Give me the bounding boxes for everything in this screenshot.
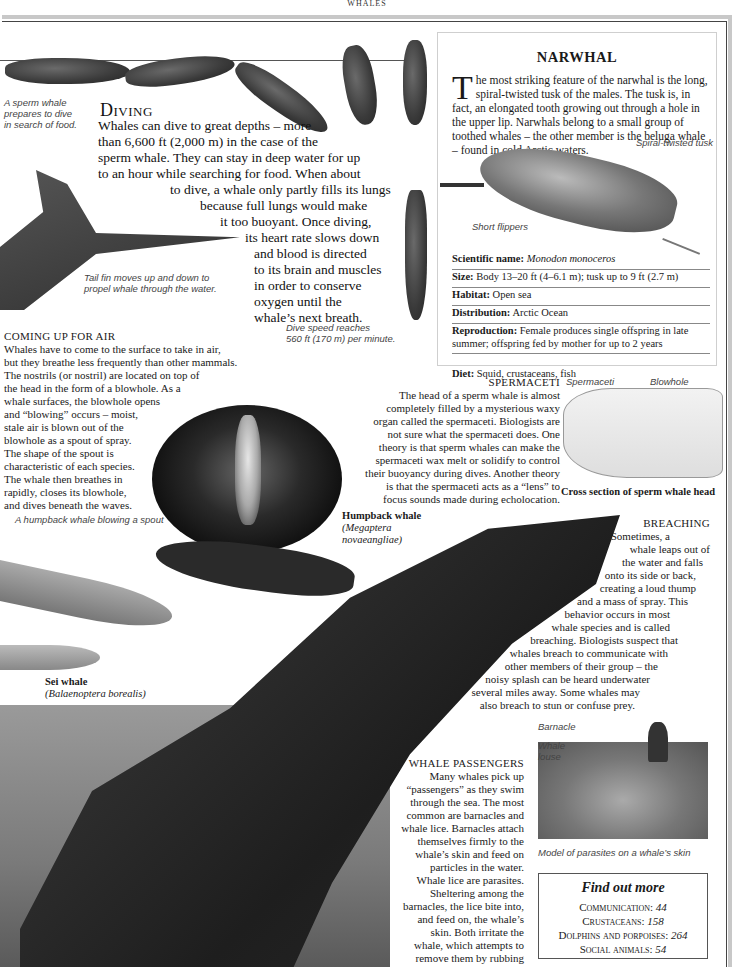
passengers-body: Many whales pick up “passengers” as they…	[384, 770, 524, 967]
narwhal-tail	[440, 183, 484, 187]
spermaceti-label: Spermaceti	[566, 376, 614, 387]
fact-reproduction: Reproduction: Female produces single off…	[452, 323, 710, 354]
flippers-label: Short flippers	[472, 221, 552, 232]
breaching-heading: BREACHING	[560, 517, 710, 529]
sperm-whale-diving-vertical	[405, 190, 427, 320]
sei-whale-label: Sei whale (Balaenoptera borealis)	[45, 676, 146, 700]
fact-habitat: Habitat: Open sea	[452, 287, 710, 306]
coming-up-heading: COMING UP FOR AIR	[4, 330, 115, 342]
whale-louse-label: Whale louse	[538, 740, 565, 762]
fact-scientific-name: Scientific name: Monodon monoceros	[452, 251, 710, 270]
tail-fin-caption: Tail fin moves up and down to propel wha…	[84, 272, 254, 294]
fact-size: Size: Body 13–20 ft (4–6.1 m); tusk up t…	[452, 269, 710, 288]
dive-speed-caption: Dive speed reaches 560 ft (170 m) per mi…	[286, 322, 416, 344]
passengers-heading: WHALE PASSENGERS	[400, 757, 524, 769]
tusk-label: Spiral-twisted tusk	[633, 137, 713, 148]
spermaceti-heading: SPERMACETI	[420, 376, 560, 388]
sperm-whale-illustration-1	[5, 58, 130, 84]
blowhole-label: Blowhole	[650, 376, 689, 387]
narwhal-fact-box: NARWHAL The most striking feature of the…	[437, 32, 717, 366]
breaching-body: Sometimes, a whale leaps out of the wate…	[455, 530, 710, 712]
humpback-label: Humpback whale (Megaptera novaeangliae)	[342, 510, 421, 546]
find-link-social-animals[interactable]: Social animals: 54	[539, 943, 707, 956]
drop-cap: T	[452, 75, 473, 101]
diagram-caption: Cross section of sperm whale head	[561, 486, 715, 497]
fact-distribution: Distribution: Arctic Ocean	[452, 305, 710, 324]
sperm-whale-caption: A sperm whale prepares to dive in search…	[4, 97, 99, 130]
running-head: WHALES	[0, 0, 734, 8]
parasites-caption: Model of parasites on a whale’s skin	[538, 847, 690, 858]
find-link-dolphins[interactable]: Dolphins and porpoises: 264	[539, 929, 707, 942]
sperm-whale-illustration-5	[403, 40, 427, 125]
diving-body: Whales can dive to great depths – more t…	[98, 118, 391, 326]
sei-whale-illustration	[0, 645, 100, 670]
spermaceti-body: The head of a sperm whale is almost comp…	[320, 389, 560, 506]
spout-photo-caption: A humpback whale blowing a spout	[15, 514, 195, 525]
find-link-communication[interactable]: Communication: 44	[539, 901, 707, 914]
find-link-crustaceans[interactable]: Crustaceans: 158	[539, 915, 707, 928]
barnacle-label: Barnacle	[538, 721, 576, 732]
spout-spray	[235, 415, 261, 525]
find-out-more-title: Find out more	[539, 880, 707, 896]
find-out-more-box: Find out more Communication: 44 Crustace…	[538, 873, 708, 959]
barnacle-shape	[648, 722, 668, 762]
sperm-whale-head-diagram	[563, 388, 723, 478]
narwhal-heading: NARWHAL	[438, 49, 716, 66]
